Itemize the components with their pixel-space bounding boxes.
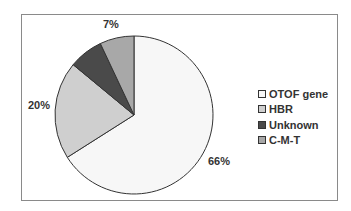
legend-item-unknown: Unknown bbox=[258, 117, 328, 133]
legend: OTOF gene HBR Unknown C-M-T bbox=[258, 86, 328, 148]
pie-slices bbox=[55, 36, 213, 194]
legend-label-hbr: HBR bbox=[269, 103, 293, 115]
legend-label-otof: OTOF gene bbox=[269, 88, 328, 100]
legend-item-otof: OTOF gene bbox=[258, 86, 328, 102]
legend-label-cmt: C-M-T bbox=[269, 134, 300, 146]
data-label-otof: 66% bbox=[208, 155, 230, 167]
legend-swatch-unknown bbox=[258, 121, 266, 129]
legend-label-unknown: Unknown bbox=[269, 119, 319, 131]
legend-item-cmt: C-M-T bbox=[258, 133, 328, 149]
data-label-hbr: 20% bbox=[28, 99, 50, 111]
legend-swatch-otof bbox=[258, 90, 266, 98]
legend-item-hbr: HBR bbox=[258, 102, 328, 118]
legend-swatch-hbr bbox=[258, 105, 266, 113]
legend-swatch-cmt bbox=[258, 136, 266, 144]
data-label-7: 7% bbox=[103, 18, 119, 30]
